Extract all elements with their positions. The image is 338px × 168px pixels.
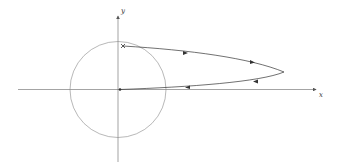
x-axis-label: x (319, 91, 323, 99)
diagram-canvas: x y (0, 0, 338, 168)
direction-arrow-icon (253, 80, 258, 84)
direction-arrow-icon (250, 60, 255, 64)
origin-dot-icon (119, 88, 122, 91)
y-axis-label: y (120, 7, 126, 15)
trajectory-upper-branch (123, 46, 284, 72)
trajectory-lower-branch (120, 72, 284, 90)
